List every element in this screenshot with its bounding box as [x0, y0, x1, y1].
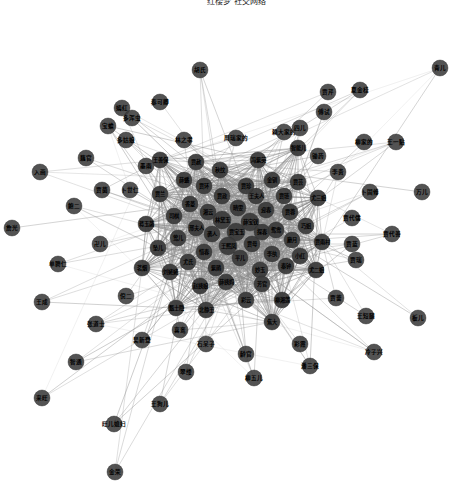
network-graph-canvas[interactable]: 贾宝玉林黛玉薛宝钗王熙凤贾母袭人探春晴雯平儿湘云迎春惜春李纨贾政王夫人邢夫人鸳鸯… [0, 0, 473, 484]
graph-node[interactable]: 王短腿 [357, 308, 375, 324]
graph-node[interactable]: 探春 [254, 224, 270, 240]
graph-node[interactable]: 王成 [34, 294, 50, 310]
graph-node[interactable]: 贾环 [196, 178, 212, 194]
graph-node[interactable]: 胡氏 [192, 62, 208, 78]
graph-node[interactable]: 柳五儿 [245, 370, 263, 386]
node-label: 喜鸾 [174, 326, 186, 334]
node-label: 司棋 [169, 212, 180, 220]
graph-node[interactable]: 金钏 [264, 172, 280, 188]
graph-node[interactable]: 贾芹 [320, 84, 336, 100]
graph-node[interactable]: 贾赦 [188, 154, 204, 170]
node-label: 北静王 [199, 306, 215, 314]
graph-node[interactable]: 湘云 [200, 204, 216, 220]
graph-node[interactable]: 傅试 [316, 104, 332, 120]
graph-node[interactable]: 贾瑞 [348, 252, 364, 268]
graph-node[interactable]: 翠缕 [178, 364, 194, 380]
graph-node[interactable]: 尤氏 [180, 254, 196, 270]
graph-node[interactable]: 王狗儿 [151, 396, 169, 412]
graph-node[interactable]: 秋纹 [212, 162, 228, 178]
graph-node[interactable]: 锄药 [310, 148, 326, 164]
graph-node[interactable]: 晴雯 [230, 200, 246, 216]
graph-node[interactable]: 小红 [292, 248, 308, 264]
graph-node[interactable]: 赵姨娘 [192, 278, 209, 294]
graph-node[interactable]: 贾菌 [94, 182, 110, 198]
graph-node[interactable]: 薛蟠 [176, 172, 192, 188]
node-label: 晴雯 [233, 204, 244, 212]
node-label: 秦可卿 [150, 98, 169, 106]
graph-node[interactable]: 贾蔷 [328, 290, 344, 306]
graph-node[interactable]: 迎春 [258, 202, 274, 218]
graph-node[interactable]: 来旺 [34, 390, 50, 406]
graph-node[interactable]: 焦大 [264, 314, 280, 330]
graph-node[interactable]: 入画 [32, 164, 48, 180]
graph-node[interactable]: 林之孝 [175, 132, 193, 148]
graph-node[interactable]: 鸳鸯 [268, 222, 284, 238]
graph-node[interactable]: 尤三姐 [310, 190, 327, 206]
graph-node[interactable]: 紫鹃 [208, 260, 224, 276]
graph-node[interactable]: 芳官 [254, 276, 270, 292]
graph-node[interactable]: 卜固修 [361, 184, 379, 200]
node-label: 卜世仁 [121, 186, 139, 194]
graph-node[interactable]: 莺儿 [170, 230, 186, 246]
graph-node[interactable]: 詹光 [4, 220, 20, 236]
graph-node[interactable]: 藕官 [78, 150, 94, 166]
node-label: 邢夫人 [188, 224, 205, 232]
graph-node[interactable]: 香菱 [182, 196, 198, 212]
graph-node[interactable]: 李纨 [264, 246, 280, 262]
graph-node[interactable]: 龄官 [238, 346, 254, 362]
graph-node[interactable]: 巧姐 [298, 218, 314, 234]
graph-node[interactable]: 智通 [68, 354, 84, 370]
node-label: 贾母 [247, 240, 257, 248]
node-label: 周瑞家的 [224, 134, 248, 142]
graph-node[interactable]: 贾政 [214, 188, 230, 204]
graph-node[interactable]: 彩云 [238, 292, 254, 308]
graph-node[interactable]: 王一贴 [387, 134, 405, 150]
graph-node[interactable]: 坠儿 [150, 240, 166, 256]
graph-node[interactable]: 贾代儒 [343, 210, 361, 226]
graph-node[interactable]: 喜鸾 [172, 322, 188, 338]
graph-node[interactable]: 夏金桂 [350, 82, 369, 98]
graph-node[interactable]: 惜春 [196, 244, 212, 260]
graph-node[interactable]: 李贵 [330, 164, 346, 180]
graph-node[interactable]: 单聘仁 [49, 256, 67, 272]
graph-node[interactable]: 卜世仁 [121, 182, 139, 198]
graph-node[interactable]: 麝月 [284, 232, 300, 248]
graph-node[interactable]: 贾代善 [383, 226, 401, 242]
graph-node[interactable]: 贾珍 [238, 178, 254, 194]
graph-node[interactable]: 卍儿 [92, 236, 108, 252]
graph-node[interactable]: 冷子兴 [365, 344, 383, 360]
graph-node[interactable]: 秦钟 [278, 258, 294, 274]
graph-node[interactable]: 青儿 [432, 60, 448, 76]
graph-node[interactable]: 贾芸 [290, 174, 306, 190]
graph-node[interactable]: 袭人 [204, 226, 220, 242]
graph-node[interactable]: 司棋 [166, 208, 182, 224]
graph-node[interactable]: 秦可卿 [150, 94, 169, 110]
graph-node[interactable]: 贾琏 [276, 188, 292, 204]
graph-node[interactable]: 尤二姐 [308, 262, 325, 278]
node-label: 智通 [70, 358, 82, 366]
node-label: 贾赦 [191, 158, 202, 166]
graph-node[interactable]: 金荣 [107, 464, 123, 480]
graph-node[interactable]: 宝蟾 [100, 118, 116, 134]
graph-node[interactable]: 万儿 [414, 184, 430, 200]
graph-node[interactable]: 板儿 [410, 310, 426, 326]
graph-node[interactable]: 贾蓝 [344, 236, 360, 252]
graph-node[interactable]: 贾蓉 [282, 204, 298, 220]
graph-node[interactable]: 邢夫人 [188, 220, 205, 236]
graph-node[interactable]: 茗烟 [134, 260, 150, 276]
graph-node[interactable]: 贾兰 [152, 186, 168, 202]
graph-node[interactable]: 蒋玉菡 [138, 216, 155, 232]
graph-node[interactable]: 彩霞 [292, 336, 308, 352]
graph-node[interactable]: 薛姨妈 [218, 274, 234, 290]
graph-node[interactable]: 潘三保 [301, 358, 319, 374]
graph-node[interactable]: 张道士 [87, 316, 105, 332]
graph-node[interactable]: 墨雨 [138, 158, 154, 174]
graph-node[interactable]: 智能儿 [290, 140, 307, 156]
graph-node[interactable]: 倪二 [118, 288, 134, 304]
node-label: 莺儿 [173, 234, 184, 242]
graph-node[interactable]: 妙玉 [252, 262, 268, 278]
graph-node[interactable]: 鲍二 [66, 198, 82, 214]
graph-node[interactable]: 平儿 [232, 250, 248, 266]
graph-node[interactable]: 四儿 [292, 120, 308, 136]
graph-node[interactable]: 旺儿媳妇 [102, 416, 126, 432]
